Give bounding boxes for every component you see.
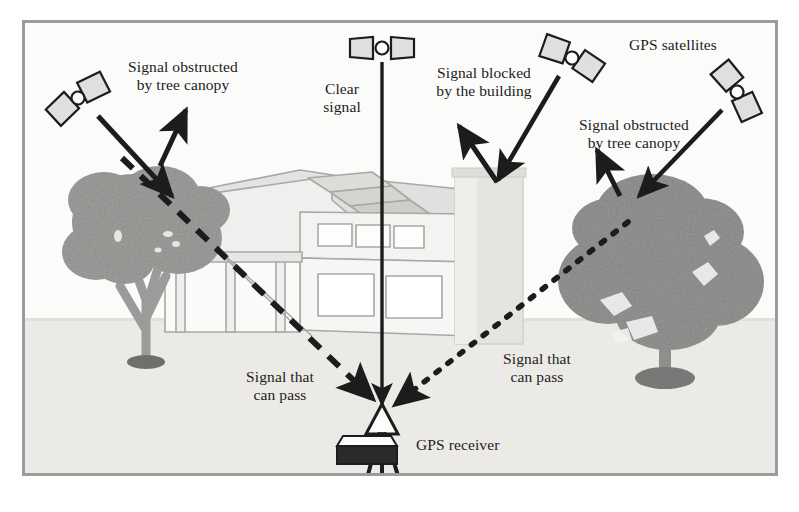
- label-gps-receiver: GPS receiver: [416, 436, 556, 454]
- path-reflect-left: [160, 110, 186, 166]
- receiver-case: [337, 436, 397, 464]
- label-gps-satellites: GPS satellites: [606, 36, 740, 54]
- label-clear-signal: Clear signal: [306, 80, 378, 116]
- satellite-top-center: [350, 37, 414, 59]
- label-signal-can-pass-left: Signal that can pass: [222, 368, 338, 404]
- label-signal-blocked-building: Signal blocked by the building: [411, 64, 557, 100]
- building-tower: [452, 168, 526, 344]
- label-signal-obstructed-right: Signal obstructed by tree canopy: [551, 116, 717, 152]
- label-signal-obstructed-left: Signal obstructed by tree canopy: [104, 58, 262, 94]
- label-signal-can-pass-right: Signal that can pass: [479, 350, 595, 386]
- figure-root: Signal obstructed by tree canopy Clear s…: [0, 0, 799, 512]
